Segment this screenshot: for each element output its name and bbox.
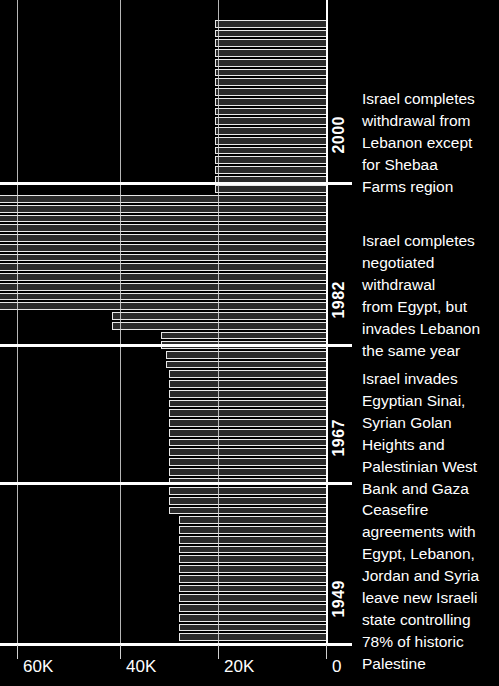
bar-1949 xyxy=(215,20,326,28)
bar-1991 xyxy=(169,429,326,437)
bar-1954 xyxy=(215,69,326,77)
chart-container: 2000 1982 1967 1949 Israel completes wit… xyxy=(0,0,499,686)
bar-1989 xyxy=(169,409,326,417)
bar-2004 xyxy=(179,555,326,563)
x-axis: 60K 40K 20K 0 xyxy=(0,645,499,686)
era-rule-1967 xyxy=(0,482,352,485)
plot-area xyxy=(0,0,340,645)
bar-1956 xyxy=(215,88,326,96)
bar-2001 xyxy=(179,526,326,534)
annotation-1967: Israel invades Egyptian Sinai, Syrian Go… xyxy=(362,368,498,500)
bar-1987 xyxy=(169,390,326,398)
bar-1974 xyxy=(0,263,326,271)
bar-1990 xyxy=(169,419,326,427)
annotation-2000: Israel completes withdrawal from Lebanon… xyxy=(362,88,498,198)
bar-2003 xyxy=(179,546,326,554)
bar-1962 xyxy=(215,147,326,155)
bar-1993 xyxy=(169,448,326,456)
gridline-60k xyxy=(17,0,18,645)
bar-2011 xyxy=(179,624,326,632)
bar-1995 xyxy=(169,468,326,476)
bar-1975 xyxy=(0,273,326,281)
tick-label-60k: 60K xyxy=(23,657,53,677)
bar-1951 xyxy=(215,39,326,47)
bar-1968 xyxy=(0,205,326,213)
bar-2000 xyxy=(179,516,326,524)
bar-2006 xyxy=(179,575,326,583)
bar-1955 xyxy=(215,78,326,86)
bar-1973 xyxy=(0,254,326,262)
bar-1966 xyxy=(215,185,326,193)
bar-2005 xyxy=(179,565,326,573)
annotation-1982: Israel completes negotiated withdrawal f… xyxy=(362,230,498,362)
bar-2008 xyxy=(179,594,326,602)
bar-1961 xyxy=(215,137,326,145)
tick-label-0: 0 xyxy=(332,657,341,677)
bar-1986 xyxy=(169,380,326,388)
bar-2012 xyxy=(179,633,326,641)
bar-1952 xyxy=(215,49,326,57)
tick-mark-40k xyxy=(120,645,121,659)
gridline-20k xyxy=(218,0,219,645)
bar-1972 xyxy=(0,244,326,252)
bar-1964 xyxy=(215,166,326,174)
gridline-40k xyxy=(120,0,121,645)
bar-1988 xyxy=(169,400,326,408)
bar-1959 xyxy=(215,117,326,125)
bar-1998 xyxy=(169,497,326,505)
tick-label-40k: 40K xyxy=(126,657,156,677)
year-label-1982: 1982 xyxy=(331,281,347,319)
tick-mark-0 xyxy=(326,645,327,659)
bar-1994 xyxy=(169,458,326,466)
bar-1997 xyxy=(169,487,326,495)
tick-mark-20k xyxy=(218,645,219,659)
bar-1978 xyxy=(0,302,326,310)
axis-zero-line xyxy=(326,0,328,645)
bar-1953 xyxy=(215,59,326,67)
bar-1970 xyxy=(0,224,326,232)
bar-1963 xyxy=(215,156,326,164)
bar-1980 xyxy=(112,322,326,330)
bar-1981 xyxy=(161,332,326,340)
bar-1979 xyxy=(112,312,326,320)
bar-1960 xyxy=(215,127,326,135)
bar-1977 xyxy=(0,293,326,301)
bar-1983 xyxy=(166,351,326,359)
bar-1985 xyxy=(169,370,326,378)
bar-1969 xyxy=(0,215,326,223)
bar-2007 xyxy=(179,585,326,593)
era-rule-1982 xyxy=(0,344,352,347)
year-label-2000: 2000 xyxy=(331,116,347,154)
bar-2009 xyxy=(179,604,326,612)
bar-1971 xyxy=(0,234,326,242)
bar-2002 xyxy=(179,536,326,544)
tick-label-20k: 20K xyxy=(224,657,254,677)
bar-1958 xyxy=(215,108,326,116)
bar-1967 xyxy=(0,195,326,203)
bar-1999 xyxy=(169,507,326,515)
era-rule-2000 xyxy=(0,182,352,185)
tick-mark-60k xyxy=(17,645,18,659)
bar-1950 xyxy=(215,30,326,38)
bar-2010 xyxy=(179,614,326,622)
bar-1992 xyxy=(169,439,326,447)
year-label-1949: 1949 xyxy=(331,580,347,618)
bar-1976 xyxy=(0,283,326,291)
bar-1984 xyxy=(166,361,326,369)
year-label-1967: 1967 xyxy=(331,419,347,457)
bar-1957 xyxy=(215,98,326,106)
